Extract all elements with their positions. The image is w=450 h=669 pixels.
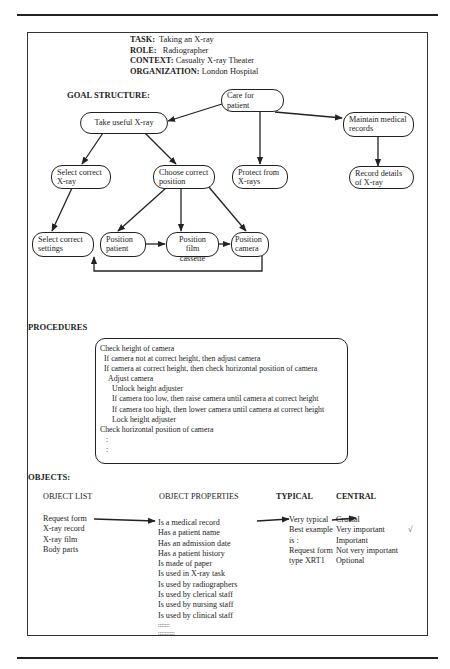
top-rule: [17, 14, 438, 16]
procedure-line: :: [100, 435, 343, 445]
role-line: ROLE: Radiographer: [130, 46, 208, 57]
central-item: Not very important: [336, 546, 398, 556]
typical-item: type XRT1: [289, 556, 333, 566]
object-properties-list: Is a medical record Has a patient name H…: [158, 518, 237, 637]
context-label: CONTEXT:: [130, 56, 174, 65]
objects-title: OBJECTS:: [28, 472, 70, 482]
goal-structure-title: GOAL STRUCTURE:: [67, 90, 150, 100]
goal-node-position-camera: Position camera: [231, 232, 269, 257]
procedure-line: If camera at correct height, then check …: [100, 364, 343, 374]
procedure-line: If camera too high, then lower camera un…: [100, 405, 343, 415]
goal-node-protect-from-xrays: Protect from X-rays: [232, 165, 288, 189]
goal-node-care-for-patient: Care for patient: [221, 89, 284, 112]
check-mark-icon: √: [408, 525, 412, 535]
procedure-line: :: [100, 445, 343, 455]
goal-node-label: Select correct settings: [38, 235, 83, 253]
goal-node-position-patient: Position patient: [100, 232, 146, 257]
goal-node-label: Take useful X-ray: [95, 118, 154, 127]
property-item: Is a medical record: [158, 518, 237, 528]
procedure-line: If camera not at correct height, then ad…: [100, 354, 343, 364]
typical-list: Very typical Best example is : Request f…: [289, 515, 333, 566]
object-list-item: X-ray film: [43, 535, 87, 545]
typical-item: Request form: [289, 546, 333, 556]
task-label: TASK:: [130, 35, 155, 44]
goal-node-label: Maintain medical records: [349, 115, 407, 133]
property-item: Is used in X-ray task: [158, 569, 237, 579]
procedure-line: Unlock height adjuster: [100, 384, 343, 394]
goal-node-label: Protect from X-rays: [238, 168, 279, 186]
goal-node-label: Position camera: [235, 235, 262, 253]
role-value: Radiographer: [163, 46, 209, 55]
typical-header: TYPICAL: [276, 492, 313, 501]
object-list-header: OBJECT LIST: [43, 492, 92, 501]
property-item: Is used by clinical staff: [158, 611, 237, 621]
procedure-line: Lock height adjuster: [100, 415, 343, 425]
procedure-line: Check horizontal position of camera: [100, 425, 343, 435]
goal-node-select-correct-settings: Select correct settings: [32, 232, 94, 257]
property-item: Is used by clerical staff: [158, 590, 237, 600]
goal-node-maintain-medical-records: Maintain medical records: [343, 112, 414, 137]
typical-item: Best example: [289, 525, 333, 535]
object-properties-header: OBJECT PROPERTIES: [159, 492, 239, 501]
property-item: ::::::::::: [158, 629, 237, 637]
role-label: ROLE:: [130, 46, 157, 55]
organization-line: ORGANIZATION: London Hospital: [130, 67, 258, 78]
procedures-title: PROCEDURES: [28, 322, 87, 332]
task-value: Taking an X-ray: [159, 35, 214, 44]
organization-label: ORGANIZATION:: [130, 67, 200, 76]
procedure-line: If camera too low, then raise camera unt…: [100, 394, 343, 404]
central-list: Crucial Very important Important Not ver…: [336, 515, 398, 566]
object-list-item: Body parts: [43, 545, 87, 555]
goal-node-label: Position patient: [106, 235, 133, 253]
property-item: Has a patient name: [158, 528, 237, 538]
property-item: Is made of paper: [158, 559, 237, 569]
bottom-rule: [17, 657, 438, 659]
procedure-line: Adjust camera: [100, 374, 343, 384]
goal-node-select-correct-xray: Select correct X-ray: [51, 165, 111, 189]
goal-node-label: Care for patient: [227, 91, 278, 110]
central-item: Very important: [336, 525, 398, 535]
context-value: Casualty X-ray Theater: [176, 56, 254, 65]
typical-item: Very typical: [289, 515, 333, 525]
goal-node-label: Record details of X-ray: [355, 169, 402, 187]
property-item: Is used by radiographers: [158, 580, 237, 590]
context-line: CONTEXT: Casualty X-ray Theater: [130, 56, 254, 67]
goal-node-label: Select correct X-ray: [57, 168, 102, 186]
central-header: CENTRAL: [336, 492, 376, 501]
property-item: Has an admission date: [158, 539, 237, 549]
property-item: Has a patient history: [158, 549, 237, 559]
goal-node-choose-correct-position: Choose correct position: [153, 165, 215, 189]
central-item: Optional: [336, 556, 398, 566]
procedures-box: Check height of camera If camera not at …: [95, 338, 348, 464]
goal-node-position-film-cassette: Position film cassette: [166, 232, 219, 257]
goal-node-record-details: Record details of X-ray: [349, 166, 414, 189]
object-list: Request form X-ray record X-ray film Bod…: [43, 514, 87, 555]
property-item: Is used by nursing staff: [158, 600, 237, 610]
property-item: :::::::: [158, 621, 237, 629]
central-item: Important: [336, 536, 398, 546]
organization-value: London Hospital: [202, 67, 259, 76]
object-list-item: Request form: [43, 514, 87, 524]
goal-node-label: Position film cassette: [179, 235, 206, 263]
goal-node-label: Choose correct position: [159, 168, 208, 186]
procedure-line: Check height of camera: [100, 344, 343, 354]
typical-item: is :: [289, 536, 333, 546]
central-item: Crucial: [336, 515, 398, 525]
object-list-item: X-ray record: [43, 524, 87, 534]
goal-node-take-useful-xray: Take useful X-ray: [80, 112, 168, 134]
task-line: TASK: Taking an X-ray: [130, 35, 214, 46]
